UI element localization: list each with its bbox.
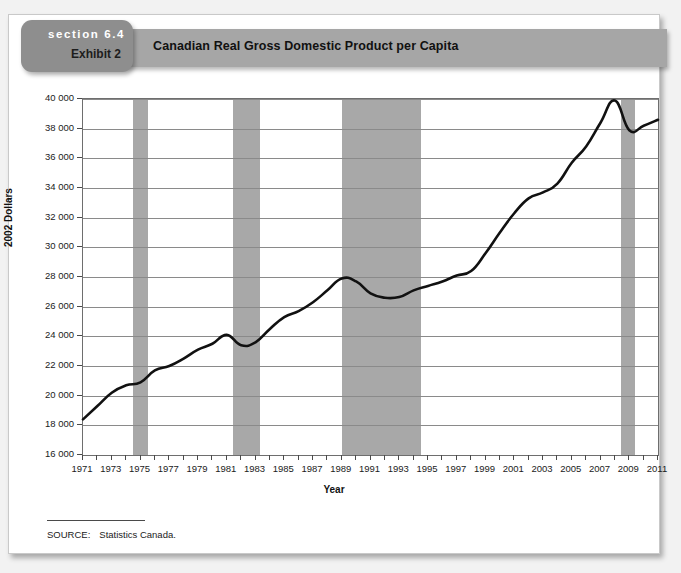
y-tick-mark bbox=[77, 335, 82, 336]
y-tick-mark bbox=[77, 187, 82, 188]
y-tick-label: 26 000 bbox=[26, 300, 74, 311]
source-note: SOURCE:Statistics Canada. bbox=[47, 529, 176, 540]
x-tick-mark bbox=[355, 455, 356, 460]
x-tick-mark bbox=[240, 455, 241, 460]
y-tick-label: 36 000 bbox=[26, 151, 74, 162]
y-tick-label: 38 000 bbox=[26, 122, 74, 133]
x-tick-mark bbox=[82, 455, 83, 460]
exhibit-number-label: Exhibit 2 bbox=[21, 47, 121, 61]
y-tick-mark bbox=[77, 246, 82, 247]
y-tick-mark bbox=[77, 424, 82, 425]
x-tick-mark bbox=[571, 455, 572, 460]
x-tick-mark bbox=[283, 455, 284, 460]
x-tick-mark bbox=[154, 455, 155, 460]
x-tick-mark bbox=[384, 455, 385, 460]
y-tick-mark bbox=[77, 157, 82, 158]
y-tick-label: 28 000 bbox=[26, 270, 74, 281]
section-number-label: section 6.4 bbox=[21, 28, 125, 40]
x-tick-mark bbox=[542, 455, 543, 460]
x-tick-mark bbox=[413, 455, 414, 460]
x-tick-mark bbox=[125, 455, 126, 460]
x-tick-mark bbox=[197, 455, 198, 460]
y-tick-mark bbox=[77, 98, 82, 99]
x-tick-mark bbox=[614, 455, 615, 460]
x-tick-mark bbox=[298, 455, 299, 460]
x-tick-mark bbox=[226, 455, 227, 460]
x-tick-mark bbox=[96, 455, 97, 460]
x-tick-label: 2011 bbox=[637, 463, 677, 474]
x-tick-mark bbox=[643, 455, 644, 460]
x-tick-mark bbox=[499, 455, 500, 460]
y-tick-mark bbox=[77, 276, 82, 277]
y-tick-label: 34 000 bbox=[26, 181, 74, 192]
x-tick-mark bbox=[183, 455, 184, 460]
exhibit-card: Canadian Real Gross Domestic Product per… bbox=[8, 14, 660, 554]
x-axis-title: Year bbox=[9, 484, 659, 495]
y-axis-title: 2002 Dollars bbox=[3, 188, 14, 247]
x-tick-mark bbox=[255, 455, 256, 460]
x-tick-mark bbox=[556, 455, 557, 460]
x-tick-mark bbox=[628, 455, 629, 460]
y-tick-label: 32 000 bbox=[26, 211, 74, 222]
x-tick-mark bbox=[370, 455, 371, 460]
x-tick-mark bbox=[211, 455, 212, 460]
x-tick-mark bbox=[456, 455, 457, 460]
exhibit-title: Canadian Real Gross Domestic Product per… bbox=[153, 39, 458, 53]
y-tick-mark bbox=[77, 217, 82, 218]
y-tick-label: 30 000 bbox=[26, 240, 74, 251]
y-tick-mark bbox=[77, 306, 82, 307]
x-tick-mark bbox=[513, 455, 514, 460]
exhibit-page: Canadian Real Gross Domestic Product per… bbox=[0, 0, 681, 573]
x-tick-mark bbox=[657, 455, 658, 460]
x-tick-mark bbox=[600, 455, 601, 460]
source-label: SOURCE: bbox=[47, 529, 90, 540]
x-tick-mark bbox=[111, 455, 112, 460]
y-tick-label: 22 000 bbox=[26, 359, 74, 370]
x-tick-mark bbox=[441, 455, 442, 460]
y-tick-mark bbox=[77, 128, 82, 129]
y-tick-mark bbox=[77, 395, 82, 396]
source-text: Statistics Canada. bbox=[99, 529, 176, 540]
x-tick-mark bbox=[341, 455, 342, 460]
series-path bbox=[83, 100, 658, 419]
x-tick-mark bbox=[312, 455, 313, 460]
source-rule bbox=[47, 520, 145, 521]
gdp-per-capita-line bbox=[83, 99, 658, 455]
x-tick-mark bbox=[485, 455, 486, 460]
y-tick-label: 20 000 bbox=[26, 389, 74, 400]
x-tick-mark bbox=[140, 455, 141, 460]
x-tick-mark bbox=[168, 455, 169, 460]
x-tick-mark bbox=[269, 455, 270, 460]
x-tick-mark bbox=[470, 455, 471, 460]
x-tick-mark bbox=[326, 455, 327, 460]
x-tick-mark bbox=[427, 455, 428, 460]
x-tick-mark bbox=[398, 455, 399, 460]
y-tick-label: 18 000 bbox=[26, 418, 74, 429]
y-tick-label: 24 000 bbox=[26, 329, 74, 340]
x-tick-mark bbox=[528, 455, 529, 460]
y-tick-mark bbox=[77, 365, 82, 366]
section-tab: section 6.4 Exhibit 2 bbox=[21, 20, 133, 72]
chart-plot-area bbox=[82, 98, 659, 456]
y-tick-label: 16 000 bbox=[26, 448, 74, 459]
x-tick-mark bbox=[585, 455, 586, 460]
y-tick-label: 40 000 bbox=[26, 92, 74, 103]
